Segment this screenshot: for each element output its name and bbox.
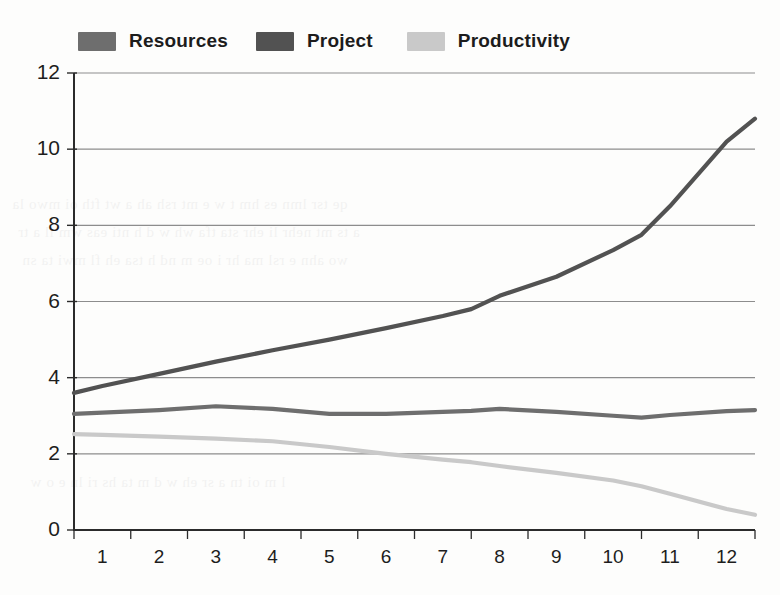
- x-axis-label-12: 12: [712, 546, 742, 568]
- y-axis-label-6: 6: [18, 289, 60, 313]
- y-axis-label-12: 12: [18, 60, 60, 84]
- x-axis-label-2: 2: [144, 546, 174, 568]
- series-line-project[interactable]: [74, 119, 755, 393]
- plot-area: [0, 0, 780, 595]
- x-axis-label-10: 10: [598, 546, 628, 568]
- series-line-productivity[interactable]: [74, 434, 755, 515]
- y-axis-label-0: 0: [18, 517, 60, 541]
- y-axis-label-10: 10: [18, 136, 60, 160]
- x-axis-label-5: 5: [314, 546, 344, 568]
- x-axis-label-1: 1: [87, 546, 117, 568]
- y-axis-label-4: 4: [18, 365, 60, 389]
- line-chart: Resources Project Productivity 024681012…: [0, 0, 780, 595]
- y-axis-label-2: 2: [18, 441, 60, 465]
- x-axis-label-6: 6: [371, 546, 401, 568]
- x-axis-label-8: 8: [485, 546, 515, 568]
- x-axis-label-4: 4: [258, 546, 288, 568]
- x-axis-label-7: 7: [428, 546, 458, 568]
- x-axis-label-11: 11: [655, 546, 685, 568]
- series-line-resources[interactable]: [74, 406, 755, 417]
- y-axis-label-8: 8: [18, 212, 60, 236]
- x-axis-label-3: 3: [201, 546, 231, 568]
- x-axis-label-9: 9: [541, 546, 571, 568]
